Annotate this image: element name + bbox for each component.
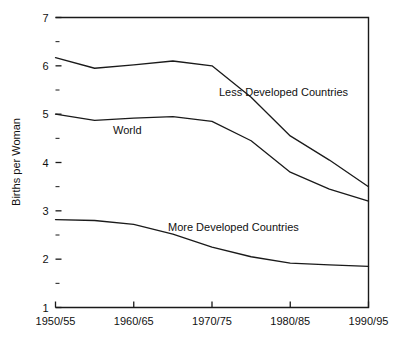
x-tick-label: 1950/55 bbox=[36, 315, 76, 327]
series-line-world bbox=[56, 114, 369, 201]
series-line-less-developed-countries bbox=[56, 58, 369, 187]
x-tick-label: 1960/65 bbox=[114, 315, 154, 327]
y-tick-label: 5 bbox=[42, 108, 48, 120]
series-label-world: World bbox=[113, 124, 142, 136]
y-tick-label: 7 bbox=[42, 12, 48, 24]
x-tick-label: 1980/85 bbox=[270, 315, 310, 327]
y-tick-label: 2 bbox=[42, 253, 48, 265]
y-axis-tick-labels: 1234567 bbox=[42, 12, 48, 314]
series-label-less-developed-countries: Less Developed Countries bbox=[219, 86, 349, 98]
line-chart: 1234567 1950/551960/651970/751980/851990… bbox=[0, 0, 397, 339]
y-tick-label: 6 bbox=[42, 60, 48, 72]
y-axis-ticks bbox=[56, 18, 62, 308]
chart-figure: 1234567 1950/551960/651970/751980/851990… bbox=[0, 0, 397, 339]
x-tick-label: 1990/95 bbox=[349, 315, 389, 327]
y-axis-title: Births per Woman bbox=[10, 118, 22, 206]
series-label-more-developed-countries: More Developed Countries bbox=[168, 221, 299, 233]
y-tick-label: 4 bbox=[42, 157, 48, 169]
x-axis-ticks bbox=[56, 302, 369, 308]
y-tick-label: 1 bbox=[42, 302, 48, 314]
y-tick-label: 3 bbox=[42, 205, 48, 217]
x-tick-label: 1970/75 bbox=[192, 315, 232, 327]
x-axis-tick-labels: 1950/551960/651970/751980/851990/95 bbox=[36, 315, 389, 327]
